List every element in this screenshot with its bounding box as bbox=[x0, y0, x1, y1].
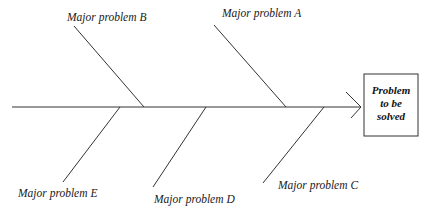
cause-label-a: Major problem A bbox=[221, 7, 302, 20]
effect-label-line-2: to be bbox=[380, 97, 402, 109]
branch-b-line bbox=[74, 26, 144, 107]
branch-a-line bbox=[214, 25, 286, 107]
cause-label-e: Major problem E bbox=[17, 187, 97, 200]
cause-label-d: Major problem D bbox=[153, 193, 235, 206]
effect-label-line-3: solved bbox=[376, 110, 406, 122]
cause-label-c: Major problem C bbox=[277, 179, 358, 192]
branch-c-line bbox=[263, 107, 324, 183]
cause-label-b: Major problem B bbox=[66, 11, 146, 24]
branch-e-line bbox=[63, 107, 120, 182]
branch-d-line bbox=[153, 107, 206, 187]
spine-arrowhead-icon bbox=[346, 92, 361, 118]
effect-label-line-1: Problem bbox=[372, 84, 411, 96]
fishbone-diagram: Problem to be solved Major problem B Maj… bbox=[0, 0, 432, 215]
